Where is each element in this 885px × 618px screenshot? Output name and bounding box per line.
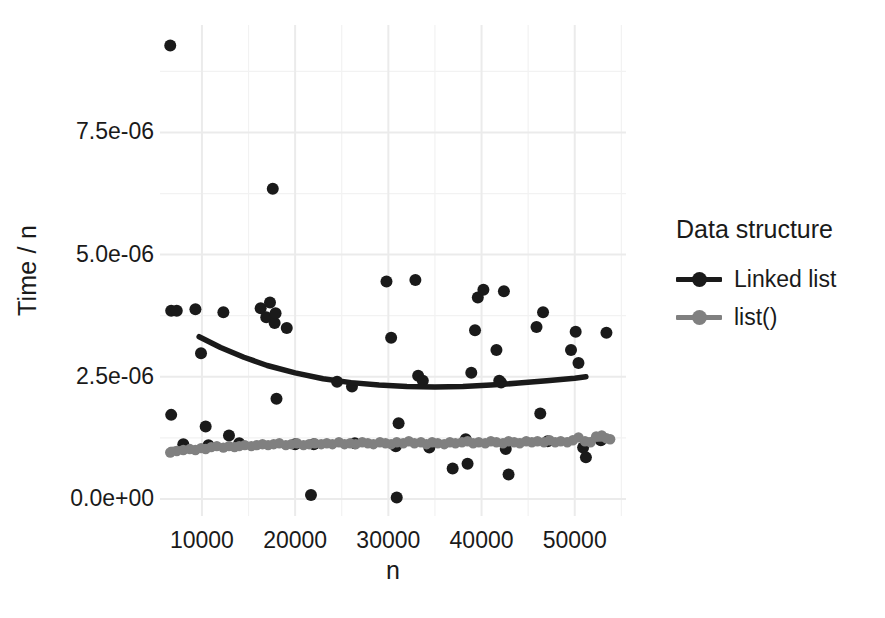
data-point <box>195 347 207 359</box>
legend-key-icon <box>676 302 722 332</box>
data-point <box>171 305 183 317</box>
x-axis-tick-label: 40000 <box>450 527 514 554</box>
data-point <box>271 393 283 405</box>
data-point <box>409 274 421 286</box>
legend-key-point <box>692 272 707 287</box>
data-point <box>189 303 201 315</box>
data-point <box>217 306 229 318</box>
data-point <box>393 417 405 429</box>
data-point <box>537 306 549 318</box>
x-axis-title: n <box>160 556 626 585</box>
legend-entry-label: list() <box>734 304 777 331</box>
data-point <box>305 489 317 501</box>
data-point <box>385 332 397 344</box>
y-axis-tick-labels: 0.0e+002.5e-065.0e-067.5e-06 <box>14 0 154 618</box>
data-point <box>447 463 459 475</box>
legend-key-point <box>692 310 707 325</box>
data-point <box>267 183 279 195</box>
y-axis-tick-label: 7.5e-06 <box>22 118 154 145</box>
data-point <box>490 344 502 356</box>
data-point <box>465 367 477 379</box>
data-point <box>200 421 212 433</box>
legend-entries: Linked listlist() <box>676 260 876 336</box>
legend-entry[interactable]: list() <box>676 298 876 336</box>
data-point <box>270 307 282 319</box>
chart-figure: Time / n 0.0e+002.5e-065.0e-067.5e-06 10… <box>0 0 885 618</box>
data-point <box>391 491 403 503</box>
y-axis-tick-label: 5.0e-06 <box>22 241 154 268</box>
data-point <box>570 326 582 338</box>
legend-title: Data structure <box>676 215 876 244</box>
legend-key-icon <box>676 264 722 294</box>
data-point <box>565 344 577 356</box>
data-point <box>498 285 510 297</box>
data-point <box>462 458 474 470</box>
y-axis-tick-label: 2.5e-06 <box>22 363 154 390</box>
data-point <box>223 429 235 441</box>
plot-panel <box>160 25 626 516</box>
data-point <box>503 468 515 480</box>
data-point <box>531 321 543 333</box>
data-point <box>281 322 293 334</box>
data-point <box>469 324 481 336</box>
x-axis-tick-label: 30000 <box>356 527 420 554</box>
data-point <box>600 327 612 339</box>
x-axis-tick-label: 50000 <box>543 527 607 554</box>
legend-entry[interactable]: Linked list <box>676 260 876 298</box>
y-axis-tick-label: 0.0e+00 <box>22 485 154 512</box>
x-axis-tick-label: 10000 <box>170 527 234 554</box>
data-point <box>165 409 177 421</box>
data-point <box>572 357 584 369</box>
data-point <box>534 407 546 419</box>
legend: Data structure Linked listlist() <box>676 215 876 336</box>
data-point <box>477 284 489 296</box>
data-point <box>580 451 592 463</box>
data-point <box>264 297 276 309</box>
plot-svg <box>160 25 626 516</box>
data-point <box>164 40 176 52</box>
legend-entry-label: Linked list <box>734 266 836 293</box>
data-point <box>380 275 392 287</box>
x-axis-tick-label: 20000 <box>263 527 327 554</box>
